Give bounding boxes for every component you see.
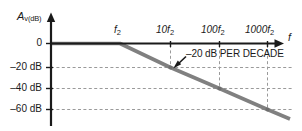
y-axis-title-subscript: v(dB) <box>24 14 41 23</box>
x-tick-label-100f2-sub: 2 <box>220 28 224 37</box>
bode-plot-canvas <box>0 0 302 131</box>
x-tick-label-1000f2: 1000f2 <box>245 25 274 37</box>
slope-callout-label: –20 dB PER DECADE <box>186 49 284 59</box>
x-tick-label-100f2-base: 100f <box>201 24 220 35</box>
curve-point-1000f2 <box>265 107 269 111</box>
x-tick-label-10f2: 10f2 <box>156 25 174 37</box>
x-tick-label-100f2: 100f2 <box>201 25 225 37</box>
x-axis-title: f <box>288 32 291 43</box>
y-tick-label-minus60: –60 dB <box>0 104 42 114</box>
x-tick-label-1000f2-sub: 2 <box>270 28 274 37</box>
y-axis-arrowhead <box>47 13 55 23</box>
curve-point-10f2 <box>168 65 172 69</box>
curve-point-100f2 <box>217 86 221 90</box>
x-tick-label-10f2-base: 10f <box>156 24 170 35</box>
callout-leader-arrow <box>173 57 186 69</box>
y-axis-title: Av(dB) <box>17 11 41 23</box>
y-tick-label-minus20: –20 dB <box>0 62 42 72</box>
x-tick-label-10f2-sub: 2 <box>170 28 174 37</box>
x-axis <box>51 39 284 48</box>
y-tick-label-minus40: –40 dB <box>0 83 42 93</box>
x-tick-label-f2-sub: 2 <box>117 28 121 37</box>
x-axis-arrowhead <box>275 39 285 48</box>
bode-plot-figure: Av(dB) 0 –20 dB –40 dB –60 dB f2 10f2 10… <box>0 0 302 131</box>
x-tick-label-f2: f2 <box>114 25 121 37</box>
x-tick-label-1000f2-base: 1000f <box>245 24 270 35</box>
y-tick-label-0: 0 <box>14 38 42 48</box>
